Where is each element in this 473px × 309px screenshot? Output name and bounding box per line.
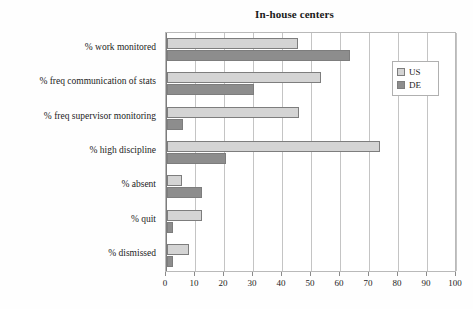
bar-de: [167, 50, 350, 61]
y-axis-category-labels: % work monitored% freq communication of …: [0, 32, 160, 272]
bar-us: [167, 72, 321, 83]
legend-item-us: US: [397, 65, 438, 78]
category-label: % freq supervisor monitoring: [0, 111, 156, 121]
x-tick-label-70: 70: [364, 278, 373, 288]
category-label: % dismissed: [0, 248, 156, 258]
x-tick-mark-70: [368, 272, 369, 276]
bar-group: [167, 175, 455, 199]
category-label: % quit: [0, 214, 156, 224]
bar-group: [167, 38, 455, 62]
legend-item-de: DE: [397, 78, 438, 91]
bar-de: [167, 187, 202, 198]
x-tick-mark-100: [455, 272, 456, 276]
bar-us: [167, 175, 182, 186]
bar-de: [167, 153, 226, 164]
legend-label-de: DE: [409, 80, 421, 90]
x-tick-label-10: 10: [190, 278, 199, 288]
x-tick-label-60: 60: [335, 278, 344, 288]
x-tick-label-50: 50: [306, 278, 315, 288]
bar-de: [167, 222, 173, 233]
gridline-100: [456, 33, 457, 271]
category-label: % freq communication of stats: [0, 76, 156, 86]
x-tick-mark-80: [397, 272, 398, 276]
x-tick-mark-60: [339, 272, 340, 276]
x-tick-label-100: 100: [448, 278, 462, 288]
chart-page: In-house centers % work monitored% freq …: [0, 0, 473, 309]
bar-us: [167, 210, 202, 221]
legend-swatch-de-icon: [397, 81, 405, 89]
x-tick-mark-20: [223, 272, 224, 276]
bar-us: [167, 141, 380, 152]
bar-us: [167, 107, 299, 118]
bar-group: [167, 141, 455, 165]
x-tick-label-30: 30: [248, 278, 257, 288]
bar-de: [167, 256, 173, 267]
x-tick-mark-40: [281, 272, 282, 276]
bar-de: [167, 84, 254, 95]
x-tick-label-90: 90: [422, 278, 431, 288]
bar-de: [167, 119, 183, 130]
x-tick-mark-50: [310, 272, 311, 276]
bar-group: [167, 107, 455, 131]
x-tick-label-40: 40: [277, 278, 286, 288]
legend-swatch-us-icon: [397, 68, 405, 76]
legend-label-us: US: [409, 67, 421, 77]
x-tick-label-0: 0: [163, 278, 168, 288]
x-tick-label-80: 80: [393, 278, 402, 288]
x-tick-mark-0: [165, 272, 166, 276]
chart-title: In-house centers: [0, 8, 473, 20]
bar-group: [167, 210, 455, 234]
category-label: % absent: [0, 179, 156, 189]
x-tick-label-20: 20: [219, 278, 228, 288]
category-label: % high discipline: [0, 145, 156, 155]
chart-legend: US DE: [392, 61, 439, 96]
x-tick-mark-90: [426, 272, 427, 276]
bar-group: [167, 244, 455, 268]
x-tick-mark-30: [252, 272, 253, 276]
bar-us: [167, 38, 298, 49]
category-label: % work monitored: [0, 42, 156, 52]
x-tick-mark-10: [194, 272, 195, 276]
x-axis: 0102030405060708090100: [165, 272, 456, 298]
bar-us: [167, 244, 189, 255]
